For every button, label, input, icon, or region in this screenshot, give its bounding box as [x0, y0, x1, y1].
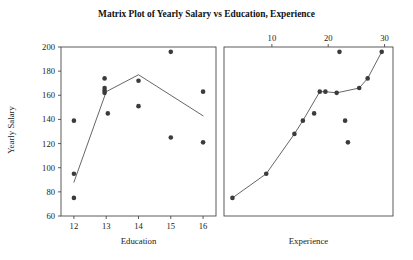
data-point — [72, 196, 77, 201]
x-tick-label: 20 — [324, 33, 333, 43]
data-point — [72, 118, 77, 123]
panel-frame — [61, 47, 216, 216]
x-tick-label: 30 — [380, 33, 389, 43]
data-point — [136, 79, 141, 84]
x-tick-label: 16 — [199, 221, 208, 231]
trend-line — [232, 52, 381, 198]
data-point — [357, 86, 362, 91]
data-point — [106, 111, 111, 116]
y-tick-label: 200 — [42, 42, 55, 52]
experience-panel: 102030Experience — [224, 33, 393, 246]
y-tick-label: 140 — [42, 114, 55, 124]
data-point — [312, 111, 317, 116]
y-tick-label: 80 — [46, 187, 55, 197]
data-point — [264, 171, 269, 176]
data-point — [168, 50, 173, 55]
data-point — [136, 104, 141, 109]
data-point — [365, 76, 370, 81]
y-tick-label: 180 — [42, 66, 55, 76]
data-point — [102, 91, 107, 96]
x-tick-label: 13 — [102, 221, 111, 231]
data-point — [292, 132, 297, 137]
y-tick-label: 100 — [42, 163, 55, 173]
y-tick-label: 120 — [42, 139, 55, 149]
data-point — [337, 50, 342, 55]
x-axis-title: Experience — [289, 236, 329, 246]
data-point — [323, 89, 328, 94]
data-point — [201, 140, 206, 145]
data-point — [301, 118, 306, 123]
data-point — [334, 91, 339, 96]
plot-canvas: Matrix Plot of Yearly Salary vs Educatio… — [0, 0, 413, 260]
chart-title: Matrix Plot of Yearly Salary vs Educatio… — [98, 9, 315, 19]
data-point — [343, 118, 348, 123]
education-panel: 60801001201401601802001213141516Educatio… — [42, 42, 216, 246]
data-point — [168, 135, 173, 140]
data-point — [201, 89, 206, 94]
data-point — [346, 140, 351, 145]
y-tick-label: 160 — [42, 90, 55, 100]
x-axis-title: Education — [121, 236, 157, 246]
data-point — [317, 89, 322, 94]
x-tick-label: 12 — [70, 221, 79, 231]
data-point — [102, 76, 107, 81]
y-axis-title: Yearly Salary — [6, 106, 16, 154]
matrix-plot-figure: Matrix Plot of Yearly Salary vs Educatio… — [0, 0, 413, 260]
x-tick-label: 10 — [268, 33, 277, 43]
data-point — [72, 171, 77, 176]
x-tick-label: 15 — [166, 221, 175, 231]
data-point — [379, 50, 384, 55]
trend-line — [74, 75, 203, 182]
panel-frame — [224, 47, 393, 216]
x-tick-label: 14 — [134, 221, 143, 231]
data-point — [230, 196, 235, 201]
y-tick-label: 60 — [46, 211, 55, 221]
